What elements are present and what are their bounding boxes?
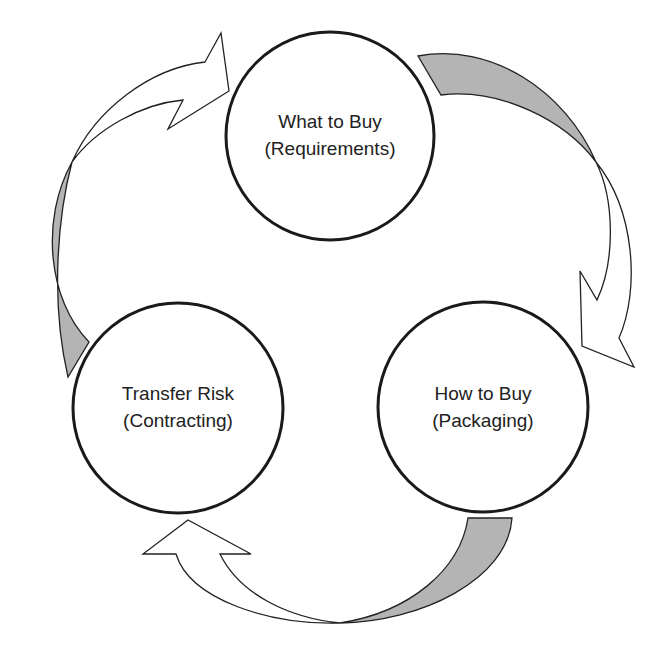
node-subtitle: (Requirements) xyxy=(230,135,430,162)
node-title: Transfer Risk xyxy=(78,380,278,407)
node-title: How to Buy xyxy=(383,380,583,407)
node-subtitle: (Packaging) xyxy=(383,407,583,434)
arrow-back-face xyxy=(340,518,512,623)
arrow-front-face xyxy=(72,33,229,162)
arrow-back-face xyxy=(418,54,596,162)
arrow-back-face xyxy=(52,162,89,377)
node-title: What to Buy xyxy=(230,108,430,135)
cycle-diagram xyxy=(0,0,660,648)
node-label-requirements: What to Buy (Requirements) xyxy=(230,108,430,162)
node-subtitle: (Contracting) xyxy=(78,407,278,434)
arrow-front-face xyxy=(580,162,634,367)
arrow-front-face xyxy=(143,520,340,623)
arrow-packaging-to-contracting xyxy=(143,518,512,623)
node-label-contracting: Transfer Risk (Contracting) xyxy=(78,380,278,434)
node-label-packaging: How to Buy (Packaging) xyxy=(383,380,583,434)
